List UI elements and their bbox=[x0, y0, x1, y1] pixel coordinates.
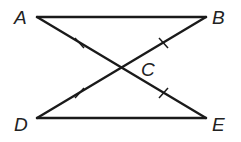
label-a: A bbox=[13, 7, 27, 28]
label-c: C bbox=[141, 59, 155, 80]
geometry-diagram: A B C D E bbox=[0, 0, 241, 142]
tick-mark-dc bbox=[75, 88, 84, 98]
label-b: B bbox=[212, 7, 225, 28]
label-e: E bbox=[212, 114, 225, 135]
label-d: D bbox=[14, 114, 28, 135]
